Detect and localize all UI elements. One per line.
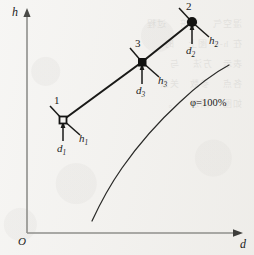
hd-diagram-figure: 湿空气 等焙 过程 在 h-d 图上 的 表示 方法 与 各点 参数 关系 如图… [0,0,254,255]
x-axis-arrowhead [233,229,243,236]
y-axis-arrowhead [23,8,30,17]
saturation-curve-label: φ=100% [190,98,226,109]
point-2-number-label: 2 [186,1,192,12]
point-3-marker [138,58,147,67]
point-3-enthalpy-label: h3 [158,75,167,89]
point-2-enthalpy-label: h2 [209,35,218,49]
y-axis-label: h [12,6,18,18]
point-2-moisture-label: d2 [186,45,195,59]
point-3-moisture-label: d3 [136,85,145,99]
point-3-number-label: 3 [135,38,141,49]
point-1-moisture-label: d1 [57,143,66,157]
x-axis-label: d [240,238,246,250]
point-1-marker [60,117,67,124]
point-2-marker [187,17,197,27]
point-1-number-label: 1 [54,95,60,106]
origin-label: O [18,236,26,247]
process-line-1-3-2 [63,22,192,120]
point-1-enthalpy-label: h1 [79,133,88,147]
